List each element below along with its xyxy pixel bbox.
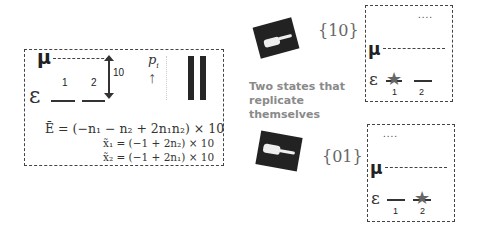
x1-equation: x̃₁ = (−1 + 2n₂) × 10 (103, 137, 214, 149)
state-01-label: {01} (322, 147, 363, 166)
site-2-level (82, 100, 105, 102)
mu-label: μ (370, 158, 383, 178)
ellipsis-dots: .... (383, 131, 398, 137)
site-2-level (414, 80, 432, 82)
probability-bar-1 (188, 56, 194, 100)
model-definition-box: μ 10 ε 1 2 pi ↑ Ē = (−n₁ − n₂ + 2n₁n₂) ×… (24, 49, 224, 166)
energy-equation: Ē = (−n₁ − n₂ + 2n₁n₂) × 10 (45, 121, 224, 136)
gap-label: 10 (113, 67, 124, 78)
up-arrow-icon: ↑ (148, 69, 156, 87)
state-01-box: .... μ ε ★ 1 2 (367, 124, 455, 222)
site-1-label: 1 (393, 206, 398, 216)
caption-line-2: replicate (249, 94, 304, 107)
site-1-level (51, 100, 75, 102)
mu-label: μ (368, 39, 381, 59)
site-2-label: 2 (420, 206, 425, 216)
probability-bar-2 (200, 56, 206, 100)
finger-shape (279, 149, 295, 155)
site-2-label: 2 (91, 77, 97, 88)
caption-line-3: themselves (249, 108, 320, 121)
site-1-level (387, 199, 405, 201)
energy-gap-arrow (108, 57, 110, 97)
hand-shape (263, 143, 281, 155)
epsilon-label: ε (369, 69, 378, 89)
site-1-label: 1 (392, 87, 397, 97)
caption-line-1: Two states that (249, 80, 345, 93)
particle-star-icon: ★ (414, 189, 430, 207)
x2-equation: x̃₂ = (−1 + 2n₁) × 10 (103, 151, 214, 163)
probability-axis (166, 56, 168, 100)
chemical-potential-line (385, 167, 447, 168)
pointing-hand-icon-bottom (255, 131, 302, 172)
mu-label: μ (37, 46, 51, 68)
state-10-box: .... μ ε ★ 1 2 (365, 5, 453, 102)
particle-star-icon: ★ (386, 70, 402, 88)
ellipsis-dots: .... (418, 12, 433, 18)
epsilon-label: ε (371, 188, 380, 208)
chemical-potential-line (383, 48, 445, 49)
site-1-label: 1 (62, 77, 68, 88)
state-10-label: {10} (318, 21, 359, 40)
i-subscript: i (156, 61, 159, 70)
chemical-potential-line (53, 58, 109, 59)
arrow-head-down (104, 93, 114, 99)
pointing-hand-icon-top (253, 17, 300, 58)
site-2-label: 2 (419, 87, 424, 97)
probability-label: pi (148, 52, 159, 70)
arrow-head-up (104, 55, 114, 61)
finger-shape (278, 34, 292, 41)
epsilon-label: ε (29, 83, 40, 108)
